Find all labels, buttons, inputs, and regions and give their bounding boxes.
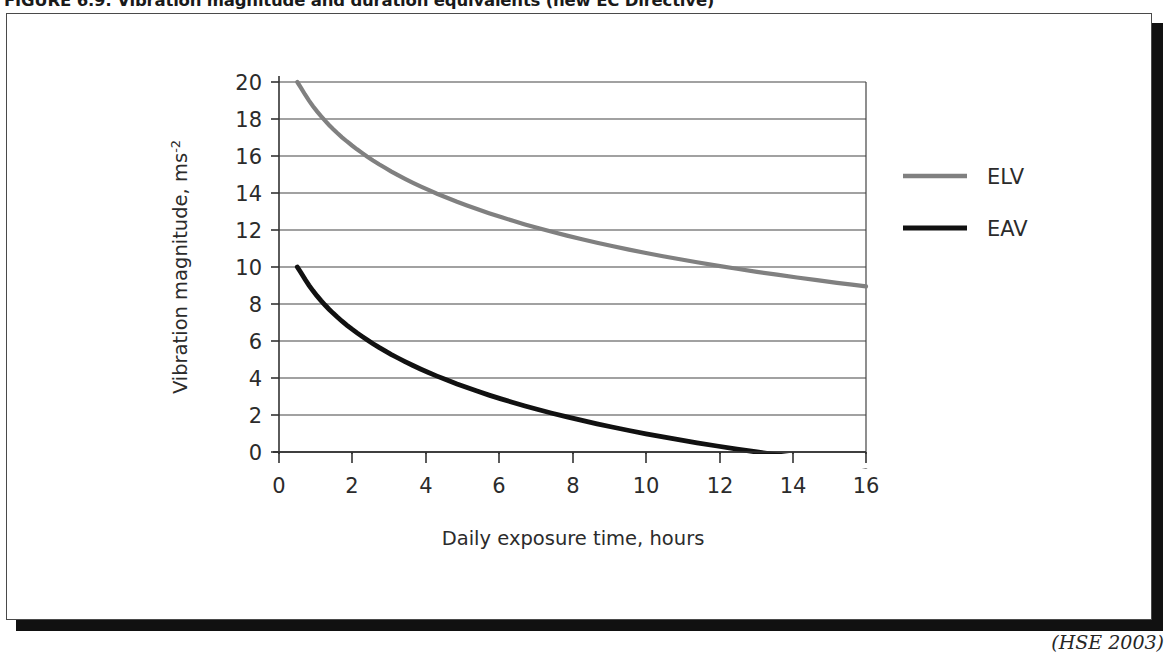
below-axis-mask <box>273 454 871 468</box>
y-tick-label: 12 <box>235 219 262 243</box>
y-tick-label: 14 <box>235 182 262 206</box>
source-note: (HSE 2003) <box>1051 631 1164 653</box>
y-axis-ticks <box>271 82 279 452</box>
x-tick-label: 6 <box>492 474 505 498</box>
y-tick-labels: 0 2 4 6 8 10 12 14 16 18 20 <box>235 71 262 465</box>
x-tick-label: 0 <box>272 474 285 498</box>
y-tick-label: 2 <box>249 404 262 428</box>
figure-caption: FIGURE 6.9: Vibration magnitude and dura… <box>4 0 714 10</box>
x-tick-label: 10 <box>633 474 660 498</box>
y-axis-title: Vibration magnitude, ms <box>169 153 192 394</box>
x-tick-label: 2 <box>345 474 358 498</box>
gridlines <box>279 82 866 415</box>
x-tick-label: 16 <box>853 474 880 498</box>
x-tick-label: 14 <box>780 474 807 498</box>
legend-label-elv: ELV <box>987 165 1025 189</box>
y-axis-title-group: Vibration magnitude, ms-2 <box>168 140 192 394</box>
y-tick-label: 10 <box>235 256 262 280</box>
y-tick-label: 18 <box>235 108 262 132</box>
y-tick-label: 6 <box>249 330 262 354</box>
y-tick-label: 16 <box>235 145 262 169</box>
y-tick-label: 4 <box>249 367 262 391</box>
series-line-eav <box>297 267 866 466</box>
vibration-chart: 0 2 4 6 8 10 12 14 16 18 20 0 2 4 6 8 10… <box>7 14 1153 621</box>
x-tick-label: 12 <box>707 474 734 498</box>
y-tick-label: 8 <box>249 293 262 317</box>
y-tick-label: 20 <box>235 71 262 95</box>
y-tick-label: 0 <box>249 441 262 465</box>
x-axis-title: Daily exposure time, hours <box>442 527 705 550</box>
x-tick-label: 8 <box>566 474 579 498</box>
chart-legend: ELV EAV <box>903 165 1028 241</box>
y-axis-title-superscript: -2 <box>168 140 183 153</box>
x-tick-labels: 0 2 4 6 8 10 12 14 16 <box>272 474 879 498</box>
series-line-elv <box>297 82 866 286</box>
x-tick-label: 4 <box>419 474 432 498</box>
svg-text:Vibration magnitude, ms-2: Vibration magnitude, ms-2 <box>168 140 192 394</box>
legend-label-eav: EAV <box>987 217 1028 241</box>
figure-frame: 0 2 4 6 8 10 12 14 16 18 20 0 2 4 6 8 10… <box>6 13 1152 620</box>
